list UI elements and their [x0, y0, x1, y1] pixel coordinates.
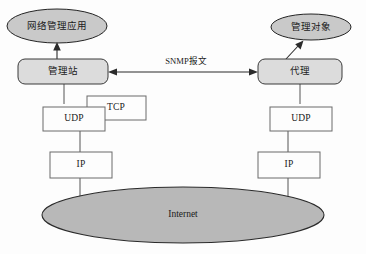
snmp-message-arrowhead-right	[249, 68, 258, 75]
udp-left-node: UDP	[43, 107, 105, 131]
udp-right-node: UDP	[270, 107, 332, 131]
snmp-message-arrowhead-left	[108, 68, 117, 75]
arrow-agent-to-managed-object	[286, 41, 304, 60]
internet-node: Internet	[42, 187, 324, 243]
snmp-message-label: SNMP报文	[165, 55, 206, 66]
arrow-station-to-application	[53, 42, 61, 59]
ip-left-node: IP	[50, 152, 112, 178]
tcp-label: TCP	[107, 102, 125, 112]
udp-right-label: UDP	[291, 113, 311, 123]
snmp-message-link: SNMP报文	[108, 55, 258, 76]
management-station-node: 管理站	[18, 59, 108, 84]
ip-right-label: IP	[285, 159, 294, 169]
arrow-agent-to-managed-object-line	[286, 45, 299, 59]
internet-label: Internet	[168, 209, 198, 219]
management-station-label: 管理站	[48, 65, 78, 76]
ip-left-label: IP	[77, 159, 86, 169]
diagram-canvas: Internet 网络管理应用 管理站 SNMP报文 管理对象	[0, 0, 366, 254]
ip-right-node: IP	[258, 152, 320, 178]
agent-label: 代理	[290, 66, 310, 76]
udp-left-label: UDP	[64, 113, 84, 123]
managed-object-node: 管理对象	[271, 14, 351, 40]
network-management-application-label: 网络管理应用	[27, 20, 87, 31]
agent-node: 代理	[258, 59, 342, 84]
snmp-architecture-diagram: Internet 网络管理应用 管理站 SNMP报文 管理对象	[0, 0, 366, 254]
managed-object-label: 管理对象	[291, 21, 331, 32]
network-management-application-node: 网络管理应用	[7, 9, 107, 43]
